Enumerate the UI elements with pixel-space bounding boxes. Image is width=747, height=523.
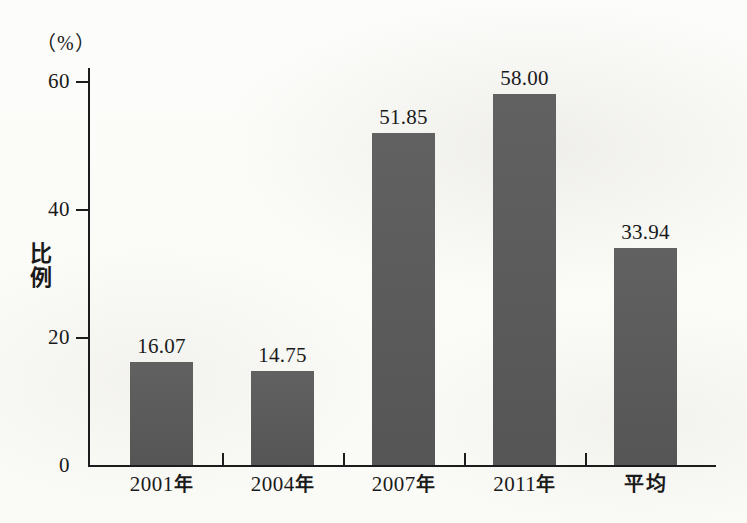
- bar-2004: [251, 371, 314, 465]
- y-axis-unit-label: （%）: [36, 27, 96, 56]
- x-category-label-2007: 2007年: [353, 474, 454, 495]
- y-tick-label-20: 20: [8, 327, 70, 348]
- x-category-label-average: 平均: [595, 474, 696, 494]
- bar-2007: [372, 133, 435, 465]
- y-tick-label-60: 60: [8, 71, 70, 92]
- x-category-label-2011: 2011年: [474, 474, 575, 495]
- x-axis-line: [88, 465, 716, 467]
- x-category-label-2004: 2004年: [232, 474, 333, 495]
- x-tick-mark-2: [343, 453, 345, 466]
- y-axis-line: [88, 68, 90, 467]
- bar-2001: [130, 362, 193, 465]
- y-axis-title: 比例: [28, 242, 54, 290]
- bar-chart-figure: （%） 比例 60 40 20 0 16.07 2001年 14.75 2004…: [0, 0, 747, 523]
- bar-average: [614, 248, 677, 465]
- x-tick-mark-1: [222, 453, 224, 466]
- x-tick-mark-4: [585, 453, 587, 466]
- bar-value-2007: 51.85: [353, 107, 454, 128]
- y-tick-label-40: 40: [8, 199, 70, 220]
- bar-value-2004: 14.75: [232, 345, 333, 366]
- y-tick-mark-40: [76, 209, 89, 211]
- x-category-label-2001: 2001年: [111, 474, 212, 495]
- y-tick-mark-60: [76, 81, 89, 83]
- bar-value-2001: 16.07: [111, 336, 212, 357]
- bar-value-average: 33.94: [595, 222, 696, 243]
- x-tick-mark-3: [464, 453, 466, 466]
- bar-value-2011: 58.00: [474, 68, 575, 89]
- y-tick-mark-20: [76, 337, 89, 339]
- bar-2011: [493, 94, 556, 465]
- y-tick-label-0: 0: [8, 455, 70, 476]
